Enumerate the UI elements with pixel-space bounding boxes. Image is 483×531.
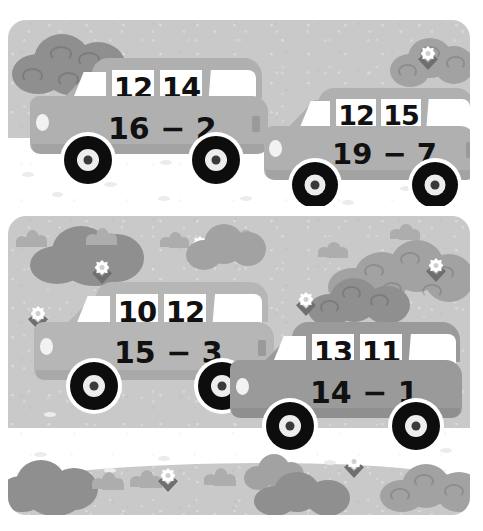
flower-bottom-1	[160, 468, 176, 492]
pebble	[158, 456, 170, 461]
pebble	[52, 192, 63, 197]
pebble	[240, 196, 252, 201]
grass-tuft	[390, 224, 420, 239]
grass-tuft	[204, 468, 236, 485]
bottom-scene-panel: 10 12 15 − 3 1	[8, 216, 470, 515]
car-2-wheel-rear	[412, 162, 458, 206]
bush-bottom-right	[380, 460, 470, 512]
pebble	[44, 412, 56, 417]
grass-tuft	[160, 232, 188, 247]
bush-bottom-center	[254, 470, 350, 515]
car-4[interactable]: 13 11 14 − 1	[230, 322, 462, 444]
worksheet-canvas: 12 14 16 − 2	[0, 0, 483, 531]
flower-top-right	[420, 46, 436, 70]
car-4-expression: 14 − 1	[310, 378, 419, 408]
car-4-wheel-rear	[392, 402, 440, 450]
car-1-wheel-rear	[192, 136, 240, 184]
flower-lower-right	[298, 292, 314, 316]
grass-tuft	[130, 470, 162, 487]
grass-tuft	[92, 472, 124, 489]
grass-tuft	[16, 230, 46, 246]
bush-cluster-lower-right	[308, 274, 412, 324]
bush-bottom-left	[8, 456, 100, 510]
car-3-expression: 15 − 3	[114, 338, 223, 368]
pebble	[440, 448, 452, 453]
car-3-wheel-front	[70, 362, 118, 410]
bush-cluster-mid-center	[186, 222, 266, 270]
car-2[interactable]: 12 15 19 − 7	[264, 88, 470, 206]
car-2-wheel-front	[292, 162, 338, 206]
car-1[interactable]: 12 14 16 − 2	[30, 58, 268, 180]
pebble	[158, 196, 170, 201]
car-1-expression: 16 − 2	[108, 114, 217, 144]
pebble	[324, 460, 336, 465]
grass-tuft	[86, 228, 116, 244]
flower-mid-left	[94, 260, 110, 284]
car-4-wheel-front	[266, 402, 314, 450]
flower-bottom-2	[346, 454, 362, 478]
flower-mid-right	[428, 258, 444, 282]
car-2-expression: 19 − 7	[332, 140, 437, 169]
car-1-wheel-front	[64, 136, 112, 184]
pebble	[104, 182, 117, 187]
top-scene-panel: 12 14 16 − 2	[8, 20, 470, 206]
